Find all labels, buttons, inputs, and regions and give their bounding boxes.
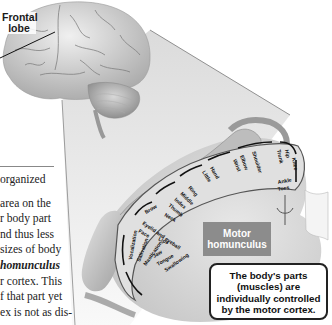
frontal-lobe-label: Frontal lobe: [2, 12, 36, 34]
motor-homunculus-label-line1: Motor: [203, 228, 271, 239]
section-divider: [0, 166, 54, 167]
callout-line: individually controlled: [211, 293, 326, 304]
callout-box: The body's parts (muscles) are individua…: [209, 263, 328, 320]
callout-line: by the motor cortex.: [211, 304, 326, 315]
callout-line: (muscles) are: [211, 281, 326, 292]
frontal-lobe-label-line2: lobe: [2, 23, 36, 34]
callout-line: The body's parts: [211, 270, 326, 281]
motor-homunculus-label-line2: homunculus: [203, 239, 271, 250]
motor-homunculus-label: Motor homunculus: [203, 222, 271, 256]
